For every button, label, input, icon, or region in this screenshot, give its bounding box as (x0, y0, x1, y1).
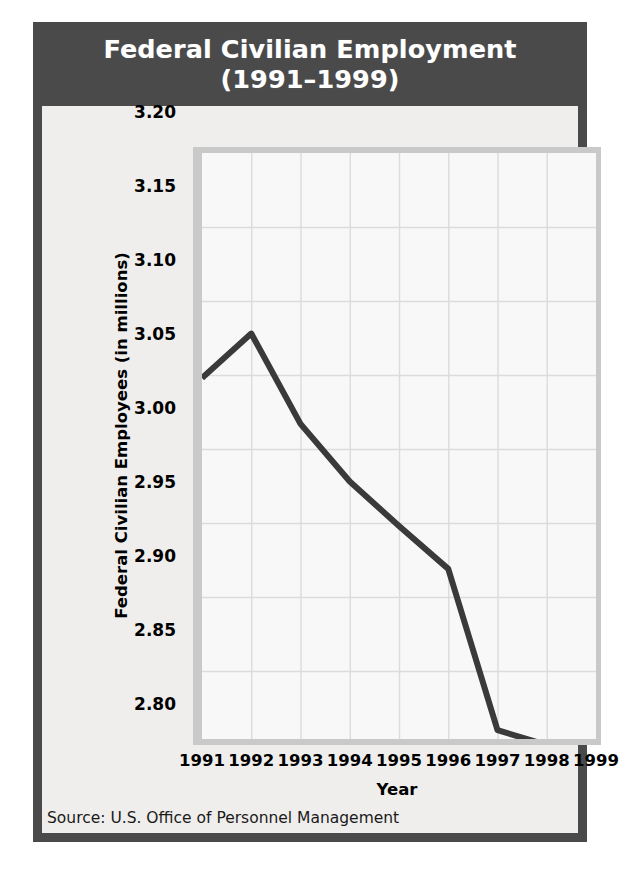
x-tick-label: 1998 (524, 751, 570, 770)
x-tick-label: 1994 (327, 751, 373, 770)
y-tick-label: 3.10 (134, 250, 176, 270)
x-tick-label: 1996 (425, 751, 471, 770)
x-tick-label: 1999 (573, 751, 619, 770)
chart-page: Federal Civilian Employment (1991–1999) … (0, 0, 620, 873)
title-line-1: Federal Civilian Employment (103, 34, 516, 64)
page-title: Federal Civilian Employment (1991–1999) (103, 34, 516, 94)
chart-body: Federal Civilian Employees (in millions)… (42, 106, 578, 833)
x-tick-label: 1997 (475, 751, 521, 770)
y-tick-label: 2.80 (134, 694, 176, 714)
line-chart-svg (202, 153, 596, 739)
y-tick-label: 3.15 (134, 176, 176, 196)
x-tick-label: 1993 (278, 751, 324, 770)
y-axis-ticks: 3.203.153.103.053.002.952.902.852.80 (42, 106, 188, 704)
source-note: Source: U.S. Office of Personnel Managem… (47, 809, 399, 827)
x-tick-label: 1992 (228, 751, 274, 770)
x-axis-ticks: 199119921993199419951996199719981999 (193, 751, 601, 777)
chart-header: Federal Civilian Employment (1991–1999) (33, 22, 587, 106)
y-tick-label: 3.20 (134, 102, 176, 122)
y-tick-label: 2.90 (134, 546, 176, 566)
gridlines (202, 153, 596, 739)
x-tick-label: 1995 (376, 751, 422, 770)
x-tick-label: 1991 (179, 751, 225, 770)
title-line-2: (1991–1999) (103, 64, 516, 94)
plot-frame (193, 147, 601, 745)
y-tick-label: 2.85 (134, 620, 176, 640)
chart-card: Federal Civilian Employment (1991–1999) … (33, 22, 587, 842)
y-tick-label: 3.05 (134, 324, 176, 344)
y-tick-label: 3.00 (134, 398, 176, 418)
x-axis-title: Year (193, 780, 601, 799)
plot-area (202, 153, 596, 739)
y-tick-label: 2.95 (134, 472, 176, 492)
